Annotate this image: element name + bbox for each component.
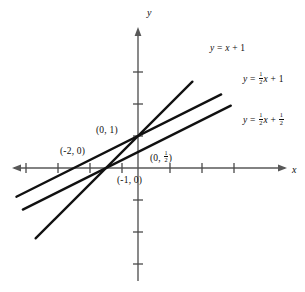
x-axis-label: x <box>292 165 297 175</box>
x-axis-positive-arrowhead <box>278 165 287 172</box>
x-axis-negative-arrowhead <box>12 165 21 172</box>
y-axis-label: y <box>147 8 152 18</box>
x-axis <box>12 163 287 173</box>
one-half-fraction: 12 <box>259 112 264 126</box>
one-half-fraction: 12 <box>164 150 168 164</box>
linear-functions-figure: y x y = x + 1 y = 12x + 1 y = 12x + 12 (… <box>0 0 305 292</box>
equation-label-line-3: y = 12x + 12 <box>243 112 284 126</box>
point-label-0-half: (0, 12) <box>150 150 172 164</box>
one-half-fraction: 12 <box>279 112 284 126</box>
point-label-minus1-0: (-1, 0) <box>117 176 142 186</box>
coordinate-plane <box>0 0 305 292</box>
equation-label-line-2: y = 12x + 1 <box>243 71 284 85</box>
point-label-minus2-0: (-2, 0) <box>60 147 85 157</box>
point-label-0-1: (0, 1) <box>96 126 118 136</box>
y-axis-positive-arrowhead <box>135 27 142 36</box>
line-y-equals-half-x-plus-half <box>23 106 231 210</box>
equation-label-line-1: y = x + 1 <box>210 44 245 54</box>
one-half-fraction: 12 <box>259 71 264 85</box>
